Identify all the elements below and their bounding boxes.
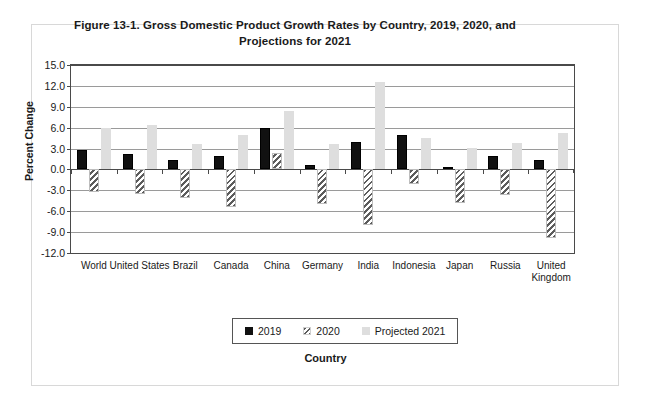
bar-2019[interactable] (534, 160, 544, 170)
bar-group (528, 65, 574, 253)
gridline (71, 253, 574, 254)
legend-label-2020: 2020 (316, 325, 339, 337)
bar-2020[interactable] (89, 169, 99, 192)
x-tick-mark-inner (345, 170, 346, 174)
bar-projected-2021[interactable] (284, 111, 294, 169)
y-tick-label: 15.0 (21, 60, 65, 70)
bar-group (71, 65, 117, 253)
x-tick-mark-inner (71, 170, 72, 174)
y-tick-label: 9.0 (21, 102, 65, 112)
x-tick-mark-inner (208, 170, 209, 174)
bar-projected-2021[interactable] (329, 144, 339, 169)
bar-2020[interactable] (455, 169, 465, 202)
bar-projected-2021[interactable] (558, 133, 568, 170)
bar-2019[interactable] (168, 160, 178, 170)
bar-2020[interactable] (363, 169, 373, 225)
legend-swatch-2020 (303, 327, 311, 335)
x-tick-mark-inner (391, 170, 392, 174)
bar-projected-2021[interactable] (147, 125, 157, 170)
bar-2019[interactable] (214, 156, 224, 169)
y-tick-label: -6.0 (21, 206, 65, 216)
bar-2019[interactable] (488, 156, 498, 170)
x-tick-mark-inner (300, 170, 301, 174)
bar-group (345, 65, 391, 253)
y-tick-label: -12.0 (21, 248, 65, 258)
legend-swatch-2019 (245, 327, 253, 335)
bar-group (300, 65, 346, 253)
y-tick-label: 12.0 (21, 81, 65, 91)
bar-projected-2021[interactable] (467, 148, 477, 170)
bar-projected-2021[interactable] (101, 128, 111, 169)
legend-item-projected-2021[interactable]: Projected 2021 (362, 325, 446, 337)
x-tick-mark-inner (437, 170, 438, 174)
bar-projected-2021[interactable] (421, 138, 431, 169)
bar-projected-2021[interactable] (192, 144, 202, 170)
x-tick-mark-inner (483, 170, 484, 174)
bar-group (254, 65, 300, 253)
x-tick-mark-inner (254, 170, 255, 174)
y-tick-label: 6.0 (21, 123, 65, 133)
bar-group (483, 65, 529, 253)
bar-projected-2021[interactable] (238, 135, 248, 170)
bar-2020[interactable] (546, 169, 556, 238)
x-tick-label: United Kingdom (518, 260, 584, 284)
bar-projected-2021[interactable] (512, 143, 522, 169)
y-tick-label: 3.0 (21, 144, 65, 154)
x-tick-mark-inner (528, 170, 529, 174)
x-axis-title: Country (0, 352, 651, 364)
bar-group (391, 65, 437, 253)
bar-group (208, 65, 254, 253)
bar-2020[interactable] (500, 169, 510, 194)
legend-label-2019: 2019 (258, 325, 281, 337)
legend-swatch-projected-2021 (362, 327, 370, 335)
bar-2019[interactable] (351, 142, 361, 170)
chart-title: Figure 13-1. Gross Domestic Product Grow… (60, 17, 530, 49)
x-tick-mark-inner (162, 170, 163, 174)
legend-item-2020[interactable]: 2020 (303, 325, 339, 337)
legend-label-projected-2021: Projected 2021 (375, 325, 446, 337)
bar-2019[interactable] (260, 128, 270, 170)
bar-2019[interactable] (305, 165, 315, 169)
chart-legend: 2019 2020 Projected 2021 (232, 318, 458, 344)
bar-2020[interactable] (317, 169, 327, 203)
bar-group (117, 65, 163, 253)
x-tick-mark (573, 169, 574, 173)
bar-2020[interactable] (272, 153, 282, 169)
bar-2019[interactable] (397, 135, 407, 170)
bar-2020[interactable] (180, 169, 190, 198)
bar-2019[interactable] (123, 154, 133, 169)
bar-2019[interactable] (443, 167, 453, 169)
bar-projected-2021[interactable] (375, 82, 385, 169)
x-tick-mark-inner (117, 170, 118, 174)
y-tick-label: -9.0 (21, 227, 65, 237)
y-tick-label: 0.0 (21, 164, 65, 174)
bar-2020[interactable] (135, 169, 145, 193)
bar-2020[interactable] (226, 169, 236, 207)
bar-2020[interactable] (409, 169, 419, 184)
bar-2019[interactable] (77, 150, 87, 169)
bar-group (437, 65, 483, 253)
bar-group (162, 65, 208, 253)
y-tick-mark (67, 253, 71, 254)
legend-item-2019[interactable]: 2019 (245, 325, 281, 337)
y-tick-label: -3.0 (21, 185, 65, 195)
plot-area: 15.012.09.06.03.00.0-3.0-6.0-9.0-12.0Wor… (70, 64, 575, 254)
